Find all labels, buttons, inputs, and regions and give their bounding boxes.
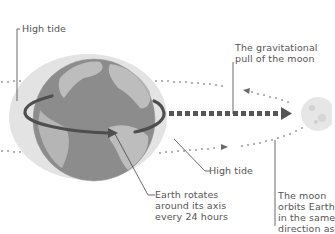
label-high-tide-right: High tide bbox=[209, 165, 253, 176]
label-moon-orbits: The moon orbits Earth in the same direct… bbox=[278, 190, 335, 234]
label-gravitational-pull: The gravitational pull of the moon bbox=[235, 42, 318, 64]
earth-globe bbox=[33, 59, 155, 181]
label-line: orbits Earth bbox=[278, 201, 335, 212]
label-line: Earth rotates bbox=[155, 189, 228, 200]
label-line: The gravitational bbox=[235, 42, 318, 53]
label-line: The moon bbox=[278, 190, 335, 201]
moon bbox=[301, 97, 332, 131]
label-line: every 24 hours bbox=[155, 211, 228, 222]
orbit-arrowhead-bottom bbox=[221, 144, 228, 150]
label-high-tide-top: High tide bbox=[22, 23, 66, 34]
label-line: pull of the moon bbox=[235, 53, 318, 64]
label-line: in the same bbox=[278, 212, 335, 223]
label-line: around its axis bbox=[155, 200, 228, 211]
orbit-arrowhead-top bbox=[243, 88, 250, 94]
gravity-arrow bbox=[169, 107, 292, 120]
label-line: direction as bbox=[278, 223, 335, 234]
label-earth-rotates: Earth rotates around its axis every 24 h… bbox=[155, 189, 228, 222]
